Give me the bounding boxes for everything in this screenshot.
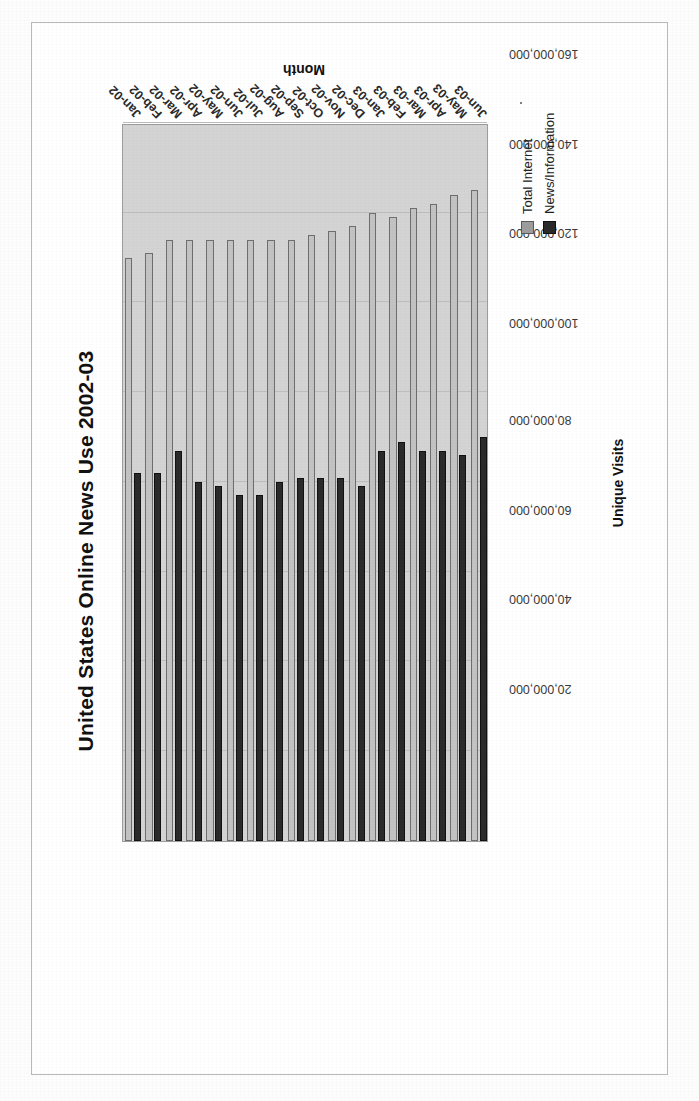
scanned-page: United States Online News Use 2002-03 16… [0,0,699,1101]
bar-news-information [296,477,303,840]
bar-group [123,125,143,841]
bar-total-internet [226,239,233,840]
legend-swatch-total-internet [521,221,534,234]
value-tick-label: 60,000,000 [509,503,572,517]
bar-news-information [398,441,405,840]
chart-title: United States Online News Use 2002-03 [74,46,98,1056]
chart-legend: Total Internet News/Information [520,54,557,234]
bar-group [184,125,204,841]
bar-group [245,125,265,841]
bar-news-information [357,486,364,841]
bar-news-information [174,450,181,840]
bar-chart: United States Online News Use 2002-03 16… [50,46,650,1056]
legend-item-total-internet: Total Internet [520,54,535,234]
value-tick-label: 40,000,000 [509,592,572,606]
bar-total-internet [470,190,477,841]
bar-news-information [316,477,323,840]
bar-total-internet [247,239,254,840]
gridline [123,122,487,123]
legend-label-news-information: News/Information [542,112,557,213]
bar-group [163,125,183,841]
bar-group [367,125,387,841]
bar-total-internet [287,239,294,840]
value-axis-title: Unique Visits [610,124,626,842]
legend-label-total-internet: Total Internet [520,138,535,213]
bar-total-internet [348,226,355,841]
bar-total-internet [430,203,437,840]
bar-total-internet [389,217,396,841]
bar-total-internet [450,194,457,840]
bar-news-information [337,477,344,840]
bar-group [428,125,448,841]
rotated-chart-wrapper: United States Online News Use 2002-03 16… [0,0,699,1101]
bar-group [143,125,163,841]
legend-swatch-news-information [543,221,556,234]
bar-total-internet [186,239,193,840]
category-axis-title: Month [283,62,325,78]
bar-total-internet [145,253,152,841]
bar-group [326,125,346,841]
bar-total-internet [125,257,132,840]
bar-news-information [276,482,283,841]
bar-news-information [194,482,201,841]
bar-group [224,125,244,841]
plot-area [122,124,488,842]
bar-news-information [133,473,140,841]
value-tick-label: 80,000,000 [509,413,572,427]
bar-news-information [255,495,262,841]
bar-group [387,125,407,841]
bar-news-information [377,450,384,840]
bar-news-information [479,437,486,841]
value-tick-label: 20,000,000 [509,682,572,696]
bar-news-information [154,473,161,841]
bar-total-internet [409,208,416,841]
bar-total-internet [308,235,315,841]
bar-news-information [235,495,242,841]
bar-group [204,125,224,841]
bar-total-internet [267,239,274,840]
bar-total-internet [206,239,213,840]
bar-group [285,125,305,841]
bar-total-internet [369,212,376,840]
bar-total-internet [165,239,172,840]
bar-group [468,125,488,841]
legend-item-news-information: News/Information [542,54,557,234]
bar-news-information [418,450,425,840]
bar-group [346,125,366,841]
bar-total-internet [328,230,335,840]
bar-group [448,125,468,841]
bar-group [407,125,427,841]
scan-speck [520,102,522,104]
bar-news-information [438,450,445,840]
value-tick-label: 100,000,000 [509,316,579,330]
bar-news-information [215,486,222,841]
bar-news-information [459,455,466,841]
bar-group [265,125,285,841]
bar-group [306,125,326,841]
